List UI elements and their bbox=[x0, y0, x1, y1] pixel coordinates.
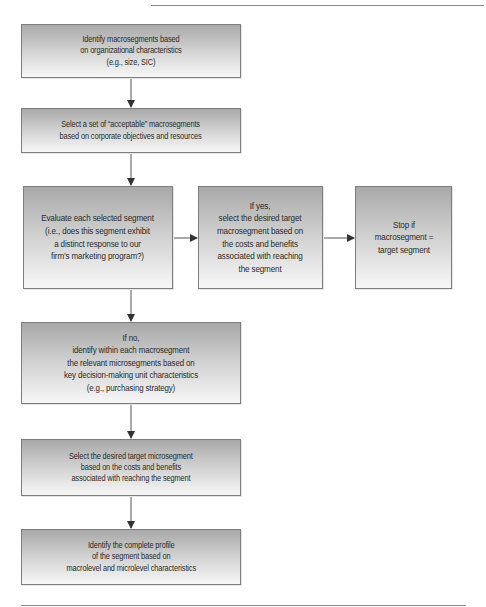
node-label: If yes, select the desired target macros… bbox=[217, 200, 303, 276]
node-complete-profile: Identify the complete profile of the seg… bbox=[21, 529, 241, 585]
node-if-no: If no, identify within each macrosegment… bbox=[21, 322, 241, 404]
top-rule bbox=[151, 5, 484, 6]
node-label: Identify macrosegments based on organiza… bbox=[80, 34, 181, 68]
node-evaluate-segment: Evaluate each selected segment (i.e., do… bbox=[23, 186, 173, 289]
node-label: Stop if macrosegment = target segment bbox=[374, 219, 432, 257]
connector-arrows bbox=[0, 0, 486, 607]
node-identify-macrosegments: Identify macrosegments based on organiza… bbox=[21, 24, 241, 78]
node-label: Evaluate each selected segment (i.e., do… bbox=[42, 212, 155, 262]
node-label: Identify the complete profile of the seg… bbox=[66, 540, 195, 574]
node-select-microsegment: Select the desired target microsegment b… bbox=[21, 439, 241, 496]
node-label: Select the desired target microsegment b… bbox=[69, 451, 193, 485]
bottom-rule bbox=[21, 605, 466, 606]
node-label: If no, identify within each macrosegment… bbox=[64, 332, 198, 394]
node-label: Select a set of “acceptable” macrosegmen… bbox=[60, 119, 202, 141]
node-select-acceptable: Select a set of “acceptable” macrosegmen… bbox=[21, 108, 241, 153]
node-if-yes: If yes, select the desired target macros… bbox=[198, 186, 323, 289]
node-stop: Stop if macrosegment = target segment bbox=[355, 186, 452, 289]
